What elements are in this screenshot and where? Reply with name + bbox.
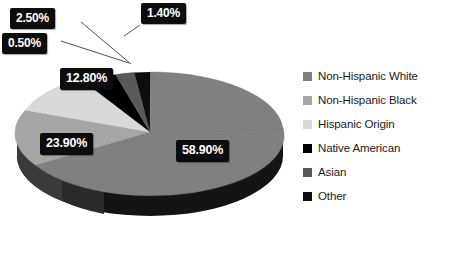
legend-label: Other — [318, 190, 346, 202]
legend-swatch-icon — [303, 192, 312, 201]
legend-item-non-hispanic-black: Non-Hispanic Black — [303, 88, 449, 112]
data-label-asian: 2.50% — [10, 8, 55, 29]
legend-item-asian: Asian — [303, 160, 449, 184]
legend-label: Non-Hispanic Black — [318, 94, 417, 106]
leader-line-asian — [81, 22, 131, 64]
data-label-non-hispanic-white: 58.90% — [176, 140, 229, 162]
data-label-native-american: 0.50% — [2, 33, 47, 54]
leader-line-other — [124, 25, 140, 36]
chart-legend: Non-Hispanic White Non-Hispanic Black Hi… — [303, 64, 449, 208]
legend-swatch-icon — [303, 96, 312, 105]
legend-item-non-hispanic-white: Non-Hispanic White — [303, 64, 449, 88]
legend-label: Hispanic Origin — [318, 118, 394, 130]
data-label-non-hispanic-black: 23.90% — [40, 133, 93, 155]
pie-chart: 2.50% 0.50% 1.40% 12.80% 23.90% 58.90% N… — [0, 0, 452, 262]
legend-item-native-american: Native American — [303, 136, 449, 160]
legend-item-other: Other — [303, 184, 449, 208]
pie-leader-lines — [61, 22, 140, 64]
legend-item-hispanic-origin: Hispanic Origin — [303, 112, 449, 136]
data-label-hispanic-origin: 12.80% — [60, 68, 113, 90]
legend-label: Asian — [318, 166, 346, 178]
legend-swatch-icon — [303, 120, 312, 129]
legend-swatch-icon — [303, 168, 312, 177]
pie-slice-white-wrap — [150, 72, 283, 132]
legend-label: Native American — [318, 142, 400, 154]
legend-swatch-icon — [303, 144, 312, 153]
legend-label: Non-Hispanic White — [318, 70, 418, 82]
leader-line-native-american — [61, 41, 129, 63]
legend-swatch-icon — [303, 72, 312, 81]
data-label-other: 1.40% — [141, 3, 186, 24]
